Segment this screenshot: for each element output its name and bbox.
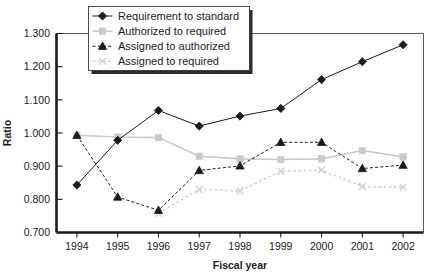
chart-container: 1.3001.2001.1001.0000.9000.8000.70019941…: [0, 0, 431, 274]
x-axis-title: Fiscal year: [213, 259, 267, 271]
y-axis-tick-label: 0.800: [24, 193, 50, 205]
x-axis-tick-label: 1997: [188, 240, 212, 252]
x-axis-tick-label: 1994: [65, 240, 89, 252]
y-axis-tick-label: 1.100: [24, 94, 50, 106]
data-point-marker: [318, 156, 324, 162]
y-axis-tick-label: 0.700: [24, 226, 50, 238]
x-axis-tick-label: 2001: [351, 240, 375, 252]
square-marker: [99, 28, 105, 34]
y-axis-tick-label: 0.900: [24, 160, 50, 172]
legend-item-label: Assigned to required: [118, 55, 219, 67]
data-point-marker: [278, 156, 284, 162]
legend-item-label: Authorized to required: [118, 25, 226, 37]
y-axis-tick-label: 1.200: [24, 60, 50, 72]
x-axis-tick-label: 2002: [391, 240, 415, 252]
x-axis-tick-label: 2000: [310, 240, 334, 252]
data-point-marker: [400, 154, 406, 160]
data-point-marker: [359, 147, 365, 153]
x-axis-tick-label: 1995: [106, 240, 130, 252]
data-point-marker: [196, 153, 202, 159]
data-point-marker: [155, 134, 161, 140]
y-axis-tick-label: 1.000: [24, 127, 50, 139]
legend-item-label: Requirement to standard: [118, 10, 239, 22]
line-chart: 1.3001.2001.1001.0000.9000.8000.70019941…: [0, 0, 431, 274]
x-axis-tick-label: 1999: [269, 240, 293, 252]
x-axis-tick-label: 1998: [228, 240, 252, 252]
legend-item-label: Assigned to authorized: [118, 40, 230, 52]
x-axis-tick-label: 1996: [147, 240, 171, 252]
y-axis-tick-label: 1.300: [24, 27, 50, 39]
legend: Requirement to standardAuthorized to req…: [89, 7, 253, 75]
y-axis-title: Ratio: [1, 120, 13, 146]
